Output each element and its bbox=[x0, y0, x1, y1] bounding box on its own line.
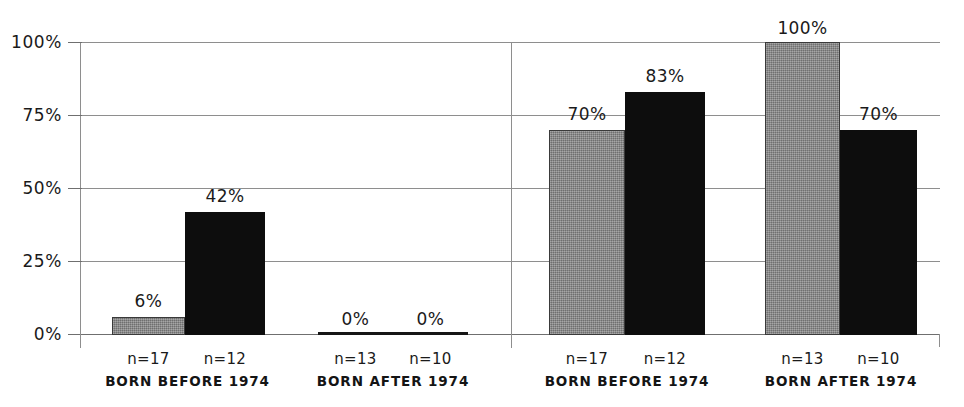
n-label-left-g1-gray: n=17 bbox=[112, 352, 185, 367]
category-label-layer: n=17 n=12 BORN BEFORE 1974 n=13 n=10 BOR… bbox=[0, 0, 964, 407]
group-label-right-g1: BORN BEFORE 1974 bbox=[534, 375, 720, 389]
n-label-left-g2-gray: n=13 bbox=[318, 352, 393, 367]
chart-figure: 100% 75% 50% 25% 0% 6% 42% 0% 0% 70% bbox=[0, 0, 964, 407]
n-label-right-g1-black: n=12 bbox=[625, 352, 705, 367]
group-label-left-g2: BORN AFTER 1974 bbox=[300, 375, 486, 389]
n-label-right-g2-gray: n=13 bbox=[765, 352, 840, 367]
n-label-right-g1-gray: n=17 bbox=[549, 352, 625, 367]
n-label-right-g2-black: n=10 bbox=[840, 352, 917, 367]
n-label-left-g2-black: n=10 bbox=[393, 352, 468, 367]
group-label-left-g1: BORN BEFORE 1974 bbox=[95, 375, 280, 389]
n-label-left-g1-black: n=12 bbox=[185, 352, 265, 367]
group-label-right-g2: BORN AFTER 1974 bbox=[748, 375, 934, 389]
